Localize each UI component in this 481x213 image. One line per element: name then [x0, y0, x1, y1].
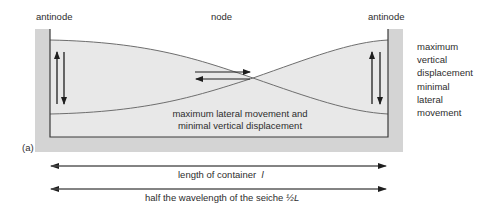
half-wavelength-label: half the wavelength of the seiche ½L	[145, 192, 299, 204]
node-label: node	[211, 11, 232, 23]
wavelength-symbol: ½L	[286, 192, 299, 203]
node-annotation-line1: maximum lateral movement and	[150, 108, 330, 120]
antinode-left-label: antinode	[36, 11, 72, 23]
annotation-line: maximum	[417, 40, 473, 53]
length-symbol: l	[261, 169, 263, 180]
antinode-right-label: antinode	[368, 11, 404, 23]
annotation-line: minimal	[417, 80, 473, 93]
annotation-line: movement	[417, 106, 473, 119]
container-length-label: length of container l	[178, 169, 264, 181]
antinode-annotation: maximum vertical displacement minimal la…	[417, 40, 473, 119]
annotation-line: vertical	[417, 53, 473, 66]
annotation-line: displacement	[417, 66, 473, 79]
panel-label: (a)	[22, 142, 34, 154]
node-annotation-line2: minimal vertical displacement	[150, 120, 330, 132]
seiche-diagram	[0, 0, 481, 213]
annotation-line: lateral	[417, 93, 473, 106]
